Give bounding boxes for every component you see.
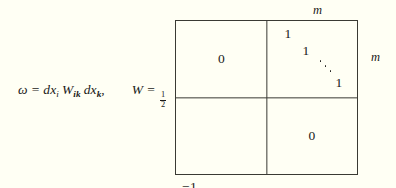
dx-first: dx: [43, 82, 56, 97]
diagonal-entry: 1: [285, 26, 292, 42]
equation-figure: ω=dxiWikdxk,W=12 m m 0 1 1 1 −1 −1 −1: [0, 0, 396, 188]
matrix-block-top-right: 1 1 1: [267, 21, 358, 98]
omega-symbol: ω: [18, 82, 28, 97]
subscript-ik: ik: [73, 89, 80, 99]
subscript-i: i: [56, 89, 59, 99]
dx-second: dx: [84, 82, 97, 97]
fraction-denominator: 2: [160, 101, 166, 110]
matrix-block-top-left: 0: [176, 21, 267, 98]
formula-expression: ω=dxiWikdxk,W=12: [18, 83, 166, 110]
matrix-block-bottom-left: −1 −1 −1: [176, 174, 267, 188]
dimension-label-right: m: [371, 50, 380, 65]
w-matrix-symbol: W: [132, 82, 143, 97]
block-matrix: 0 1 1 1 −1 −1 −1 0: [175, 20, 358, 175]
diagonal-entry: 1: [303, 43, 310, 59]
diagonal-entry: −1: [182, 179, 197, 188]
comma: ,: [101, 82, 104, 97]
dimension-label-top: m: [313, 3, 322, 18]
w-tensor-symbol: W: [62, 82, 73, 97]
diagonal-entry: 1: [336, 75, 343, 91]
w-equals-sign: =: [147, 82, 155, 97]
fraction-numerator: 1: [160, 91, 166, 100]
zero-entry: 0: [308, 128, 315, 144]
one-half-fraction: 12: [160, 91, 166, 110]
zero-entry: 0: [218, 51, 225, 67]
equals-sign: =: [32, 82, 40, 97]
matrix-block-bottom-right: 0: [267, 98, 358, 175]
